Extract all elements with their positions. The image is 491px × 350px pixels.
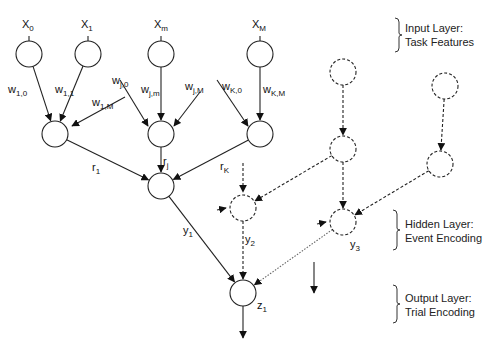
input-label-xm: Xm [154,18,168,33]
edge-e3-z1 [254,230,332,285]
edge-e1-z1 [169,196,235,282]
node-z1 [230,280,256,306]
layer-title: Hidden Layer: [405,218,474,230]
layer-subtitle: Trial Encoding [405,306,475,318]
input-label-x1: X1 [81,18,93,33]
layer-title: Output Layer: [405,292,472,304]
brace-icon [395,18,402,52]
edge-x0-h1 [33,66,51,120]
node-hj [148,121,174,147]
node-d_mid_r [427,151,453,177]
edge-h1-e1 [67,140,149,180]
layer-subtitle: Task Features [405,36,475,48]
weight-label: y2 [245,233,256,248]
weight-label: rK [220,160,230,175]
weight-label: rj [163,155,169,170]
node-hK [247,121,273,147]
brace-icon [393,210,400,250]
weight-label: wj,M [184,80,204,95]
weight-label: w1,M [91,96,114,111]
weight-label: wK,0 [221,80,243,95]
edge-d_mid_l-e2 [255,156,332,201]
partial-arrow [317,222,326,224]
node-e1 [148,173,174,199]
edge-d_top_r-d_mid_r [441,99,444,150]
neural-network-diagram: X0X1XmXMw1,0w1,1w1,Mwj,0wj,mwj,MwK,0wK,M… [0,0,491,350]
node-x0 [16,41,42,67]
brace-icon [393,285,400,323]
weight-label: wK,M [262,83,286,98]
node-h1 [42,121,68,147]
input-label-xM: XM [252,18,266,33]
weight-label: r1 [92,161,101,176]
node-d_top_l [330,59,356,85]
input-label-x0: X0 [22,18,34,33]
nodes [16,36,458,306]
weight-label: y3 [350,238,361,253]
layer-subtitle: Event Encoding [405,232,482,244]
layer-title: Input Layer: [405,22,463,34]
weight-label: w1,1 [54,83,75,98]
node-xm [148,41,174,67]
weight-label: wj,0 [111,74,129,89]
node-d_top_r [432,73,458,99]
partial-edges [72,80,326,338]
weight-label: z1 [257,299,268,314]
labels: X0X1XmXMw1,0w1,1w1,Mwj,0wj,mwj,MwK,0wK,M… [7,18,361,314]
node-e2 [230,195,256,221]
node-e3 [330,209,356,235]
partial-arrow [174,92,200,126]
weight-label: w1,0 [7,83,28,98]
edge-hK-e1 [173,140,248,179]
node-d_mid_l [330,136,356,162]
node-x1 [75,41,101,67]
edge-d_mid_r-e3 [355,171,429,215]
weight-label: wj,m [140,83,160,98]
partial-arrow [217,208,226,210]
node-xM [247,41,273,67]
